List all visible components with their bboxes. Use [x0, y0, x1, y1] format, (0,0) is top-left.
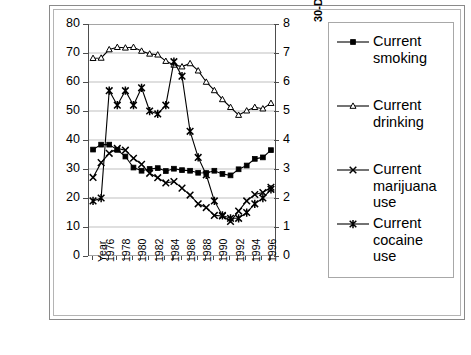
data-point-marker — [243, 208, 250, 216]
data-point-marker — [155, 166, 160, 171]
legend-item-cocaine[interactable]: Currentcocaineuse — [335, 215, 423, 265]
x-axis-tick — [229, 256, 230, 260]
data-point-marker — [179, 72, 186, 80]
x-axis-tick — [132, 256, 133, 260]
x-axis-tick-label: 1978 — [120, 239, 132, 262]
legend-label-line: use — [373, 194, 437, 211]
x-axis-tick-label: 1986 — [185, 239, 197, 262]
data-point-marker — [107, 142, 112, 147]
data-point-marker — [244, 163, 249, 168]
data-point-marker — [90, 174, 97, 181]
y-axis-right-tick-label: 4 — [283, 133, 303, 145]
data-point-marker — [260, 155, 265, 160]
y-axis-right-tick — [274, 53, 279, 54]
data-point-marker — [211, 197, 218, 205]
data-point-marker — [138, 161, 145, 168]
x-axis-tick-label: 1980 — [136, 239, 148, 262]
y-axis-right-tick-label: 7 — [283, 46, 303, 58]
data-point-marker — [139, 168, 144, 173]
legend-item-smoking[interactable]: Currentsmoking — [335, 33, 427, 66]
y-axis-right-tick — [274, 24, 279, 25]
data-point-marker — [90, 197, 97, 205]
x-axis-tick-label: 1994 — [250, 239, 262, 262]
data-point-marker — [106, 87, 113, 95]
series-canvas — [89, 24, 275, 256]
y-axis-left-tick — [83, 227, 88, 228]
legend-item-drinking[interactable]: Currentdrinking — [335, 97, 424, 130]
data-point-marker — [196, 170, 201, 175]
data-point-marker — [179, 185, 186, 192]
legend-marker-x-cross-icon — [335, 162, 371, 178]
data-point-marker — [138, 84, 145, 92]
x-axis-tick-label: 1982 — [153, 239, 165, 262]
data-point-marker — [187, 192, 194, 199]
legend-label-line: marijuana — [373, 178, 437, 195]
legend-label-line: cocaine — [373, 232, 423, 249]
y-axis-left-tick-label: 20 — [46, 191, 80, 203]
y-axis-right-tick — [274, 198, 279, 199]
legend-label-line: Current — [373, 161, 437, 178]
y-axis-right-tick-label: 1 — [283, 220, 303, 232]
y-axis-right-tick-label: 6 — [283, 75, 303, 87]
x-axis-tick — [213, 256, 214, 260]
data-point-marker — [220, 172, 225, 177]
data-point-marker — [171, 58, 178, 66]
data-point-marker — [251, 191, 258, 198]
data-point-marker — [99, 142, 104, 147]
legend-label-line: use — [373, 248, 423, 265]
data-point-marker — [236, 167, 241, 172]
legend-label: Currentmarijuanause — [373, 161, 437, 211]
y-axis-left-tick — [83, 53, 88, 54]
data-point-marker — [188, 168, 193, 173]
y-axis-left-tick — [83, 198, 88, 199]
data-point-marker — [163, 169, 168, 174]
y-axis-left-tick-label: 60 — [46, 75, 80, 87]
y-axis-right-tick-label: 0 — [283, 249, 303, 261]
data-point-marker — [180, 168, 185, 173]
chart-figure: 30-Day Prevalence of Alcohol, Tobacco, a… — [0, 0, 471, 355]
legend-marker-star-cross-icon — [335, 216, 371, 232]
data-point-marker — [269, 148, 274, 153]
y-axis-right-tick-label: 2 — [283, 191, 303, 203]
data-point-marker — [252, 104, 258, 109]
x-axis-tick — [148, 256, 149, 260]
data-point-marker — [106, 150, 113, 157]
legend-item-marijuana[interactable]: Currentmarijuanause — [335, 161, 437, 211]
legend-label-line: drinking — [373, 114, 424, 131]
y-axis-right-tick-label: 8 — [283, 17, 303, 29]
y-axis-right-tick — [274, 227, 279, 228]
data-point-marker — [163, 101, 170, 109]
legend-label-line: Current — [373, 97, 424, 114]
y-axis-left-tick-label: 70 — [46, 46, 80, 58]
x-axis-tick-label: 1990 — [217, 239, 229, 262]
y-axis-right-tick-label: 3 — [283, 162, 303, 174]
data-point-marker — [235, 208, 242, 215]
data-point-marker — [123, 154, 128, 159]
data-point-marker — [252, 156, 257, 161]
x-axis-tick — [92, 256, 93, 260]
y-axis-right-title: 30-Day Prevalence of Cocaine Use (%) — [312, 0, 325, 22]
data-point-marker — [131, 165, 136, 170]
y-axis-right-tick — [274, 82, 279, 83]
data-point-marker — [122, 87, 129, 95]
legend-label: Currentsmoking — [373, 33, 427, 66]
data-point-marker — [130, 101, 137, 109]
series-line-current-drinking — [93, 47, 271, 115]
data-point-marker — [187, 127, 194, 135]
y-axis-left-tick-label: 10 — [46, 220, 80, 232]
legend-marker-open-triangle-icon — [335, 98, 371, 114]
data-point-marker — [187, 60, 193, 65]
legend-marker-filled-square-icon — [335, 34, 371, 50]
y-axis-right-tick-label: 5 — [283, 104, 303, 116]
legend-label: Currentdrinking — [373, 97, 424, 130]
y-axis-left-tick-label: 40 — [46, 133, 80, 145]
data-point-marker — [212, 168, 217, 173]
y-axis-left-tick — [83, 140, 88, 141]
data-point-marker — [172, 166, 177, 171]
data-point-marker — [268, 100, 274, 105]
y-axis-left-tick — [83, 82, 88, 83]
x-axis-tick-label: 1996 — [266, 239, 278, 262]
data-point-marker — [243, 198, 250, 205]
x-axis-tick-label: 1984 — [169, 239, 181, 262]
legend-label: Currentcocaineuse — [373, 215, 423, 265]
